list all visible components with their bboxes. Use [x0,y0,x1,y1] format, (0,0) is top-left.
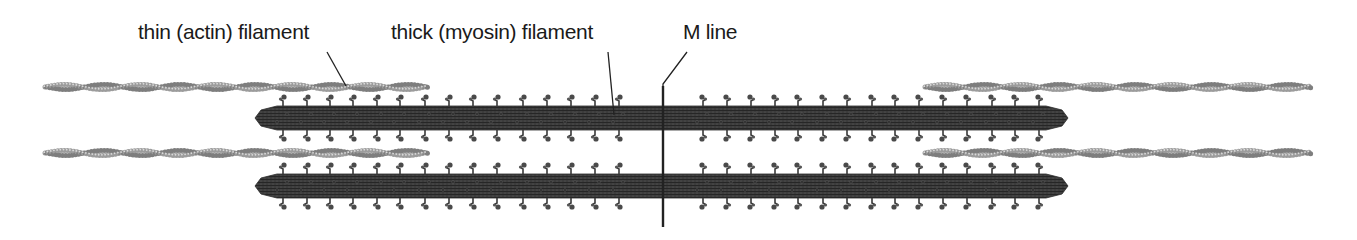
myosin-head [1035,162,1043,174]
myosin-head [591,162,599,174]
myosin-head [771,94,779,106]
myosin-head [915,198,923,210]
myosin-head [915,94,923,106]
myosin-head [279,198,287,210]
thick-filament-bottom [255,162,1068,209]
myosin-head [567,162,575,174]
myosin-head [445,198,453,210]
myosin-head [519,130,527,142]
myosin-head [421,94,429,106]
myosin-head [843,198,851,210]
myosin-head [988,162,996,174]
myosin-head [868,162,876,174]
myosin-head [615,130,623,142]
myosin-head [591,94,599,106]
myosin-head [326,94,334,106]
myosin-head [747,198,755,210]
myosin-head [771,130,779,142]
myosin-head [868,198,876,210]
myosin-head [469,130,477,142]
myosin-head [421,162,429,174]
myosin-head [519,198,527,210]
myosin-head [939,94,947,106]
myosin-head [445,162,453,174]
myosin-head [373,130,381,142]
myosin-head [819,94,827,106]
myosin-head [794,130,802,142]
myosin-head [396,130,404,142]
myosin-head [868,94,876,106]
myosin-head [349,198,357,210]
myosin-head [349,94,357,106]
myosin-head [543,130,551,142]
sarcomere-diagram [0,0,1357,240]
myosin-head [615,162,623,174]
myosin-head [868,130,876,142]
myosin-head [567,130,575,142]
myosin-head [891,198,899,210]
myosin-head [326,162,334,174]
myosin-head [326,130,334,142]
myosin-head [939,130,947,142]
myosin-head [747,130,755,142]
myosin-head [794,162,802,174]
myosin-head [543,94,551,106]
myosin-head [843,94,851,106]
m-line-leader-line [663,52,687,88]
myosin-head [699,198,707,210]
myosin-head [493,162,501,174]
myosin-head [615,198,623,210]
myosin-head [519,94,527,106]
myosin-head [349,162,357,174]
myosin-head [469,162,477,174]
myosin-head [373,162,381,174]
myosin-head [279,94,287,106]
myosin-head [723,130,731,142]
myosin-head [963,198,971,210]
myosin-head [794,94,802,106]
myosin-head [493,130,501,142]
myosin-head [1011,130,1019,142]
myosin-head [843,130,851,142]
myosin-head [891,94,899,106]
myosin-head [279,162,287,174]
myosin-head [963,94,971,106]
myosin-head [543,198,551,210]
myosin-head [469,198,477,210]
myosin-head [493,198,501,210]
myosin-head [891,162,899,174]
myosin-head [445,94,453,106]
myosin-head [303,130,311,142]
myosin-head [567,198,575,210]
myosin-head [1035,130,1043,142]
myosin-head [699,94,707,106]
myosin-head [396,162,404,174]
thin-filament-leader-line [327,52,346,86]
myosin-head [819,130,827,142]
myosin-head [1011,198,1019,210]
myosin-head [373,94,381,106]
myosin-head [1011,162,1019,174]
myosin-head [303,198,311,210]
myosin-head [396,198,404,210]
myosin-head [421,198,429,210]
myosin-head [723,198,731,210]
myosin-head [519,162,527,174]
myosin-head [988,130,996,142]
myosin-head [771,162,779,174]
myosin-head [493,94,501,106]
myosin-head [303,94,311,106]
myosin-head [303,162,311,174]
myosin-head [567,94,575,106]
myosin-head [1035,94,1043,106]
thin-filament-left-bottom [43,148,430,158]
thin-filament-right-top [923,82,1314,92]
myosin-head [1011,94,1019,106]
myosin-head [699,130,707,142]
myosin-head [445,130,453,142]
myosin-head [723,94,731,106]
myosin-head [747,162,755,174]
myosin-head [939,198,947,210]
thin-filament-left-top [43,82,430,92]
myosin-head [1035,198,1043,210]
